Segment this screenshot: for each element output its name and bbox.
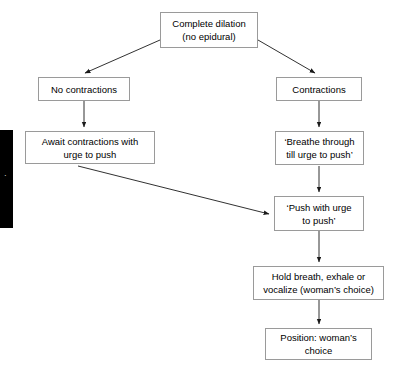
node-no-contractions[interactable]: No contractions [38, 77, 130, 101]
node-push-with-urge[interactable]: ‘Push with urge to push’ [274, 196, 364, 231]
edge-await-to-push [78, 166, 269, 214]
flowchart-edges [0, 0, 395, 368]
left-edge-marker-glyph: · [4, 172, 7, 180]
edge-dilation-to-no-contractions [85, 40, 160, 73]
node-complete-dilation[interactable]: Complete dilation (no epidural) [160, 12, 258, 48]
node-contractions[interactable]: Contractions [276, 77, 362, 101]
node-position-choice[interactable]: Position: woman’s choice [265, 328, 372, 360]
node-await-contractions[interactable]: Await contractions with urge to push [25, 131, 155, 164]
node-hold-breath[interactable]: Hold breath, exhale or vocalize (woman’s… [253, 266, 384, 300]
edge-dilation-to-contractions [258, 40, 315, 73]
flowchart-canvas: Complete dilation (no epidural) No contr… [0, 0, 395, 368]
node-breathe-through[interactable]: ‘Breathe through till urge to push’ [275, 131, 364, 165]
